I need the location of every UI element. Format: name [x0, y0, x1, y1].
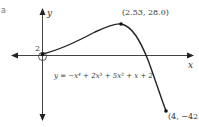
maximum-point-dot [119, 22, 123, 26]
x-axis-left-arrow-icon [11, 53, 18, 59]
y-axis-up-arrow-icon [40, 8, 46, 15]
y-axis-label: y [47, 9, 52, 18]
polynomial-curve [43, 24, 167, 111]
x-axis-label: x [188, 61, 193, 70]
y-axis-down-arrow-icon [40, 114, 46, 121]
y-axis [40, 8, 46, 121]
polynomial-graph [0, 0, 199, 127]
endpoint-label: (4, −42) [168, 113, 199, 121]
y-intercept-label: 2 [35, 45, 40, 53]
x-axis-right-arrow-icon [187, 53, 194, 59]
maximum-point-label: (2.53, 28.0) [122, 9, 169, 17]
equation-label: y = −x⁴ + 2x³ + 5x² + x + 2 [54, 73, 153, 80]
